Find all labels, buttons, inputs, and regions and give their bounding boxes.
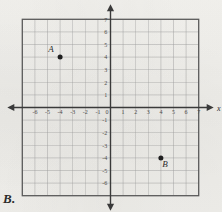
point-label-b: B [162, 159, 168, 169]
x-tick-label: -5 [45, 109, 50, 115]
point-marker-a [58, 55, 63, 60]
y-tick-label: -2 [102, 130, 107, 136]
x-tick-label: -6 [32, 109, 37, 115]
y-tick-label: 5 [104, 42, 107, 48]
x-tick-label: 7 [197, 109, 200, 115]
y-tick-label: -6 [102, 180, 107, 186]
y-tick-label: -4 [102, 155, 107, 161]
y-tick-label: 4 [104, 54, 107, 60]
y-tick-label: -1 [102, 117, 107, 123]
x-tick-label: 2 [134, 109, 137, 115]
x-tick-label: 5 [172, 109, 175, 115]
x-tick-label: -2 [83, 109, 88, 115]
x-tick-label: 6 [185, 109, 188, 115]
y-tick-label: 1 [104, 92, 107, 98]
x-tick-label: -1 [95, 109, 100, 115]
axes [7, 4, 213, 210]
y-tick-label: -5 [102, 168, 107, 174]
x-tick-label: 0 [106, 109, 109, 115]
x-axis-name-label: x [216, 104, 221, 113]
axis-name-labels: x [216, 104, 221, 113]
y-tick-label: 2 [104, 80, 107, 86]
x-tick-label: 3 [147, 109, 150, 115]
plotted-points: AB [47, 44, 168, 169]
coordinate-plane-figure: -6-5-4-3-2-1012345677654321-1-2-3-4-5-6 … [0, 0, 222, 212]
x-tick-label: -4 [58, 109, 63, 115]
x-tick-label: 4 [159, 109, 162, 115]
point-label-a: A [47, 44, 54, 54]
coordinate-plane-svg: -6-5-4-3-2-1012345677654321-1-2-3-4-5-6 … [0, 0, 222, 212]
y-tick-label: 7 [104, 17, 107, 23]
x-tick-label: 1 [122, 109, 125, 115]
y-tick-label: 6 [104, 29, 107, 35]
answer-choice-label: B. [3, 191, 16, 207]
y-tick-label: -3 [102, 143, 107, 149]
x-tick-label: -3 [70, 109, 75, 115]
axis-tick-labels: -6-5-4-3-2-1012345677654321-1-2-3-4-5-6 [32, 17, 200, 187]
y-tick-label: 3 [104, 67, 107, 73]
